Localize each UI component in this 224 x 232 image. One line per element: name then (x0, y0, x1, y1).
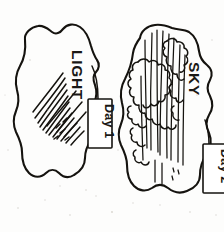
diagram-canvas: LIGHT Day 1 (0, 0, 224, 232)
day-2-tag-group[interactable]: Day 2 (203, 120, 224, 193)
light-blob-outline (14, 25, 99, 178)
sky-blob-label: SKY (186, 62, 203, 96)
sky-blob-outline (119, 25, 212, 193)
day-2-tag-label: Day 2 (218, 149, 224, 183)
light-blob-group: LIGHT (14, 25, 99, 178)
day-1-tag-group[interactable]: Day 1 (88, 66, 116, 148)
day-1-tag-label: Day 1 (102, 104, 116, 138)
light-blob-label: LIGHT (69, 50, 86, 100)
diagram-svg: LIGHT Day 1 (0, 0, 224, 232)
sky-blob-group: SKY (119, 25, 212, 193)
